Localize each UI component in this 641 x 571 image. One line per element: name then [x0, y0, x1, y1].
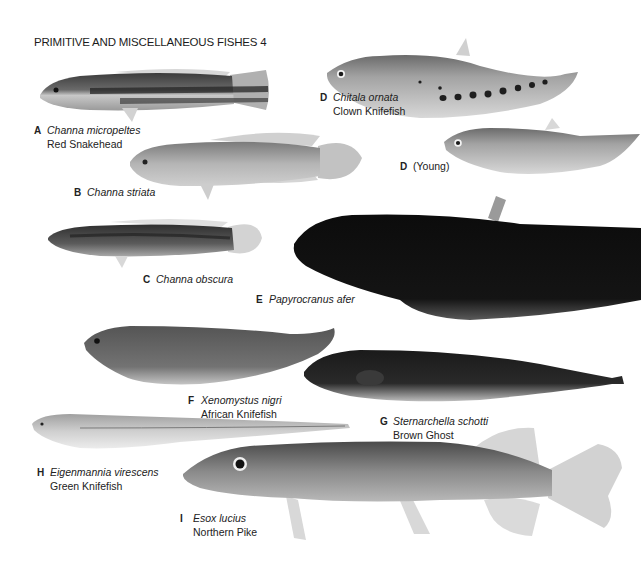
fish-g-sternarchella-schotti — [304, 350, 624, 401]
scientific-name: Xenomystus nigri — [201, 394, 282, 406]
scientific-name: Channa striata — [87, 186, 155, 198]
common-name: African Knifefish — [188, 408, 282, 421]
caption-letter: I — [180, 513, 193, 526]
caption-g: GSternarchella schotti Brown Ghost — [380, 415, 488, 441]
caption-f: FXenomystus nigri African Knifefish — [188, 394, 282, 420]
caption-letter: D — [320, 92, 333, 105]
caption-c: CChanna obscura — [143, 273, 233, 287]
fish-a-channa-micropeltes — [40, 69, 269, 122]
fish-c-channa-obscura — [48, 219, 262, 268]
caption-letter: E — [256, 294, 269, 307]
caption-letter: F — [188, 395, 201, 408]
fish-b-channa-striata — [130, 133, 362, 200]
caption-letter: C — [143, 274, 156, 287]
scientific-name: Papyrocranus afer — [269, 293, 355, 305]
scientific-name: Esox lucius — [193, 512, 246, 524]
common-name: Red Snakehead — [34, 138, 140, 151]
caption-e: EPapyrocranus afer — [256, 293, 355, 307]
fish-f-xenomystus-nigri — [84, 326, 335, 384]
caption-i: IEsox lucius Northern Pike — [180, 512, 257, 538]
caption-d-young: D(Young) — [400, 160, 449, 174]
caption-letter: D — [400, 161, 413, 174]
caption-h: HEigenmannia virescens Green Knifefish — [37, 466, 159, 492]
caption-letter: H — [37, 467, 50, 480]
fish-d-young — [444, 118, 640, 174]
common-name: Clown Knifefish — [320, 105, 405, 118]
caption-a: AChanna micropeltes Red Snakehead — [34, 124, 140, 150]
common-name: Brown Ghost — [380, 429, 488, 442]
common-name: Green Knifefish — [37, 480, 159, 493]
scientific-name: Chitala ornata — [333, 91, 398, 103]
caption-d: DChitala ornata Clown Knifefish — [320, 91, 405, 117]
caption-b: BChanna striata — [74, 186, 155, 200]
caption-letter: G — [380, 416, 393, 429]
common-name: Northern Pike — [180, 526, 257, 539]
scientific-name: Sternarchella schotti — [393, 415, 488, 427]
caption-letter: A — [34, 125, 47, 138]
caption-note: (Young) — [413, 160, 449, 172]
scientific-name: Channa micropeltes — [47, 124, 140, 136]
caption-letter: B — [74, 187, 87, 200]
scientific-name: Eigenmannia virescens — [50, 466, 159, 478]
scientific-name: Channa obscura — [156, 273, 233, 285]
